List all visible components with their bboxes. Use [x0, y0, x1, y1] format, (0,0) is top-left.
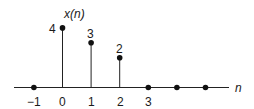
tick-label-0: 0 — [59, 96, 66, 108]
tick-label-2: 2 — [117, 96, 124, 108]
stem-dot — [174, 85, 180, 91]
stem-dot — [31, 85, 37, 91]
value-label-2: 2 — [116, 43, 123, 55]
value-label-3: 3 — [87, 28, 94, 40]
tick-label-1: 1 — [88, 96, 95, 108]
stem-plot — [0, 0, 254, 109]
x-axis-label: n — [235, 82, 242, 94]
tick-label-3: 3 — [145, 96, 152, 108]
stem-dot — [60, 25, 66, 31]
y-axis-label: x(n) — [64, 8, 85, 20]
stem-dot — [203, 85, 209, 91]
value-label-4: 4 — [49, 23, 56, 35]
tick-label-neg1: −1 — [27, 96, 41, 108]
stem-dot — [146, 85, 152, 91]
